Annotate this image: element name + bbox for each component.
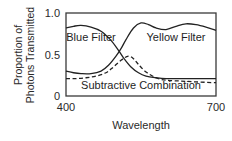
annotation-blue-filter: Blue Filter <box>66 31 116 43</box>
y-tick-label: 1.0 <box>45 7 60 19</box>
y-tick-label: 0.5 <box>45 49 60 61</box>
x-axis-label: Wavelength <box>112 119 170 131</box>
y-axis-label-line-1: Proportion of <box>12 25 24 85</box>
x-tick-label: 400 <box>57 101 75 113</box>
y-axis-label-line-2: Photons Transmitted <box>24 7 36 103</box>
x-tick-label: 700 <box>207 101 225 113</box>
annotation-yellow-filter: Yellow Filter <box>147 31 206 43</box>
annotation-subtractive-combination: Subtractive Combination <box>81 79 201 91</box>
x-tick-labels: 400700 <box>57 101 225 113</box>
annotation-layer: Blue FilterYellow FilterSubtractive Comb… <box>66 31 206 90</box>
y-axis-label: Proportion of Photons Transmitted <box>12 7 36 103</box>
transmission-chart: Proportion of Photons Transmitted 00.51.… <box>0 0 232 141</box>
y-tick-labels: 00.51.0 <box>45 7 60 102</box>
